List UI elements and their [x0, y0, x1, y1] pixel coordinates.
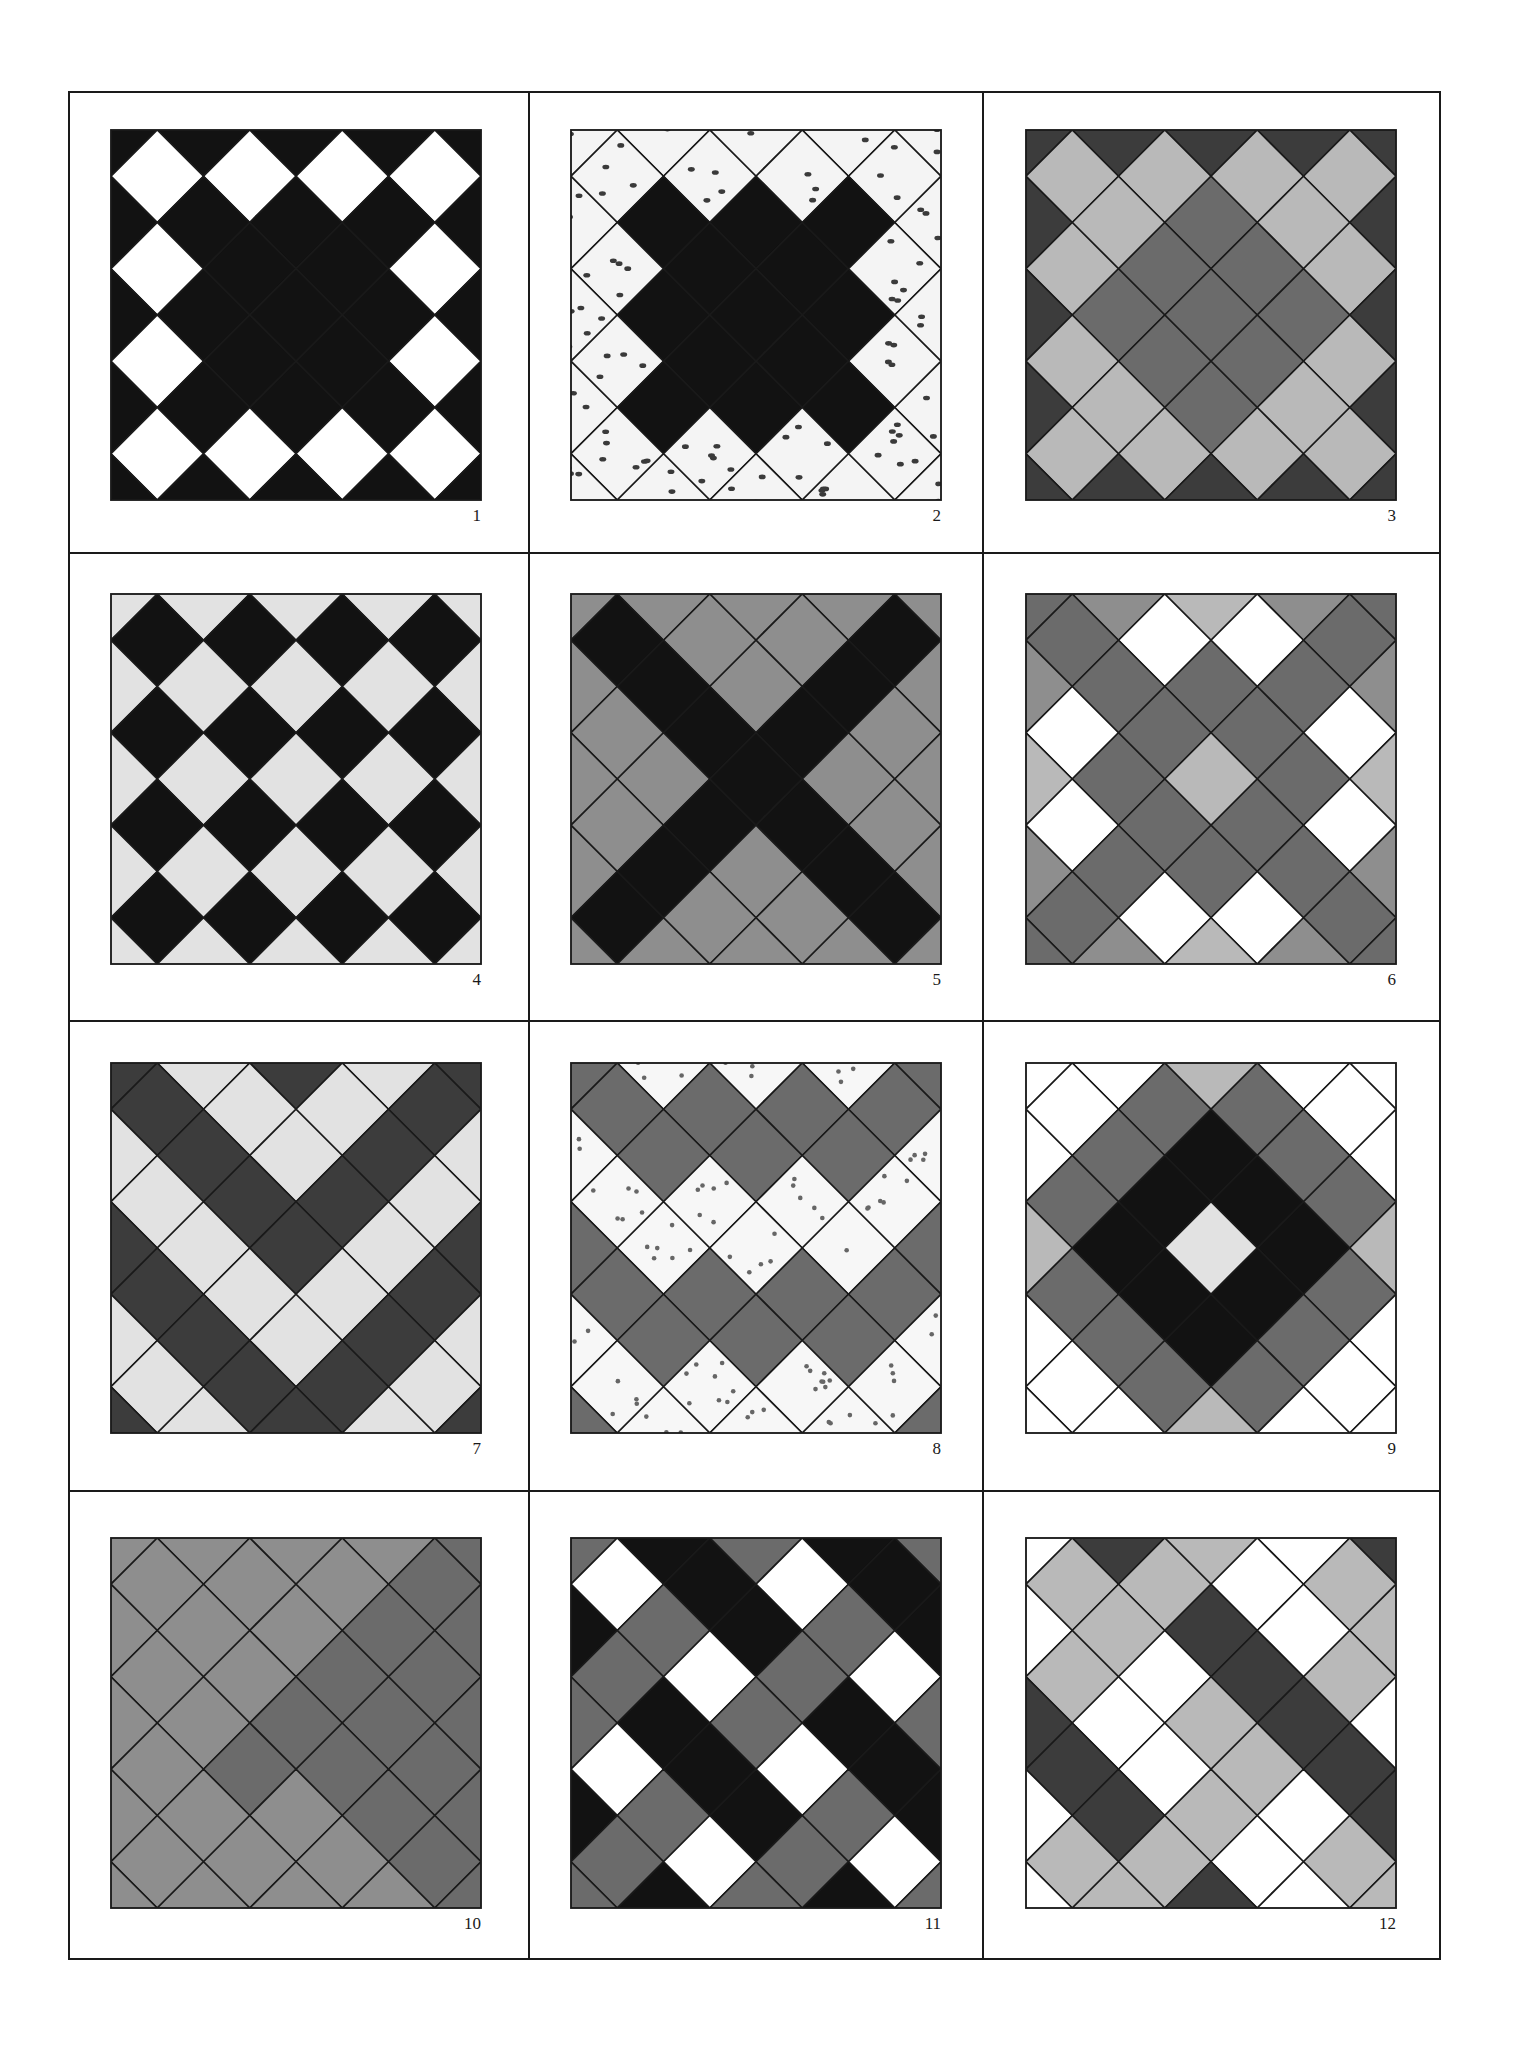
dot-speckle [848, 1413, 853, 1418]
dot-speckle [749, 1074, 754, 1079]
dot-speckle [844, 1248, 849, 1253]
dot-speckle [782, 435, 789, 440]
dot-speckle [711, 1220, 716, 1225]
dot-speckle [873, 1421, 878, 1426]
dot-speckle [896, 433, 903, 438]
quilt-block-6 [1026, 594, 1396, 964]
dot-speckle [634, 1401, 639, 1406]
dot-speckle [626, 1186, 631, 1191]
dot-speckle [791, 1183, 796, 1188]
dot-speckle [644, 1414, 649, 1419]
dot-speckle [933, 1313, 938, 1318]
dot-speckle [718, 189, 725, 194]
dot-speckle [929, 1332, 934, 1337]
dot-speckle [889, 1363, 894, 1368]
dot-speckle [624, 266, 631, 271]
dot-speckle [877, 173, 884, 178]
dot-speckle [731, 1389, 736, 1394]
dot-speckle [750, 1064, 755, 1069]
dot-speckle [824, 441, 831, 446]
tile-number-label: 4 [441, 970, 481, 990]
dot-speckle [698, 479, 705, 484]
tile-number-label: 6 [1356, 970, 1396, 990]
dot-speckle [727, 467, 734, 472]
dot-speckle [572, 1339, 577, 1344]
dot-speckle [724, 1181, 729, 1186]
dot-speckle [668, 469, 675, 474]
dot-speckle [602, 165, 609, 170]
dot-speckle [576, 193, 583, 198]
dot-speckle [670, 1223, 675, 1228]
dot-speckle [839, 1080, 844, 1085]
tile-number-label: 2 [901, 506, 941, 526]
dot-speckle [917, 207, 924, 212]
tile-number-label: 8 [901, 1439, 941, 1459]
dot-speckle [700, 1183, 705, 1188]
dot-speckle [759, 1262, 764, 1267]
dot-speckle [703, 198, 710, 203]
dot-speckle [630, 183, 637, 188]
dot-speckle [804, 1364, 809, 1369]
dot-speckle [616, 1379, 621, 1384]
row-divider [68, 1020, 1441, 1022]
dot-speckle [768, 1259, 773, 1264]
dot-speckle [711, 1186, 716, 1191]
dot-speckle [930, 434, 937, 439]
dot-speckle [821, 1379, 826, 1384]
dot-speckle [583, 273, 590, 278]
dot-speckle [750, 1410, 755, 1415]
dot-speckle [645, 1245, 650, 1250]
tile-number-label: 7 [441, 1439, 481, 1459]
dot-speckle [923, 1152, 928, 1157]
dot-speckle [921, 1157, 926, 1162]
dot-speckle [728, 486, 735, 491]
dot-speckle [890, 439, 897, 444]
dot-speckle [747, 1270, 752, 1275]
dot-speckle [620, 1217, 625, 1222]
dot-speckle [918, 314, 925, 319]
dot-speckle [916, 261, 923, 266]
dot-speckle [610, 258, 617, 263]
dot-speckle [697, 1213, 702, 1218]
dot-speckle [812, 1206, 817, 1211]
dot-speckle [820, 1216, 825, 1221]
dot-speckle [917, 323, 924, 328]
quilt-block-11 [571, 1538, 941, 1908]
dot-speckle [639, 363, 646, 368]
dot-speckle [682, 444, 689, 449]
dot-speckle [887, 239, 894, 244]
dot-speckle [894, 195, 901, 200]
dot-speckle [694, 1362, 699, 1367]
dot-speckle [900, 288, 907, 293]
dot-speckle [891, 145, 898, 150]
dot-speckle [804, 172, 811, 177]
column-divider [982, 91, 984, 1960]
dot-speckle [583, 405, 590, 410]
dot-speckle [812, 187, 819, 192]
dot-speckle [634, 1397, 639, 1402]
dot-speckle [584, 331, 591, 336]
dot-speckle [642, 1075, 647, 1080]
dot-speckle [688, 1248, 693, 1253]
quilt-block-9 [1026, 1063, 1396, 1433]
dot-speckle [892, 1379, 897, 1384]
dot-speckle [881, 1200, 886, 1205]
dot-speckle [725, 1400, 730, 1405]
dot-speckle [720, 1361, 725, 1366]
dot-speckle [575, 472, 582, 477]
dot-speckle [712, 170, 719, 175]
dot-speckle [615, 1216, 620, 1221]
row-divider [68, 1490, 1441, 1492]
dot-speckle [603, 441, 610, 446]
dot-speckle [798, 1196, 803, 1201]
quilt-block-3 [1026, 130, 1396, 500]
dot-speckle [897, 462, 904, 467]
dot-speckle [923, 396, 930, 401]
dot-speckle [610, 1412, 615, 1417]
row-divider [68, 552, 1441, 554]
dot-speckle [822, 1371, 827, 1376]
dot-speckle [684, 1371, 689, 1376]
dot-speckle [891, 280, 898, 285]
tile-number-label: 5 [901, 970, 941, 990]
dot-speckle [934, 150, 941, 155]
